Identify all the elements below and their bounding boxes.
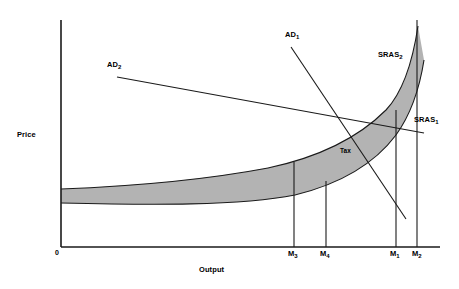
- sras1-label-sub: 1: [435, 119, 438, 125]
- output-marker-m4: M4: [320, 250, 330, 258]
- sras2-label-sub: 2: [399, 54, 402, 60]
- m4-label-sub: 4: [326, 253, 329, 259]
- ad1-label-sub: 1: [296, 34, 299, 40]
- origin-label: 0: [55, 249, 59, 256]
- sras2-label: SRAS2: [378, 51, 403, 59]
- sras1-label-text: SRAS: [414, 115, 435, 124]
- ad2-label-text: AD: [107, 60, 118, 69]
- ad1-label-text: AD: [285, 30, 296, 39]
- m2-label-sub: 2: [418, 253, 421, 259]
- output-marker-m3: M3: [288, 250, 298, 258]
- sras1-label: SRAS1: [414, 116, 439, 124]
- output-marker-m1: M1: [390, 250, 400, 258]
- ad2-curve: [117, 77, 424, 133]
- output-marker-m2: M2: [412, 250, 422, 258]
- m1-label-sub: 1: [396, 253, 399, 259]
- ad2-label-sub: 2: [118, 64, 121, 70]
- economics-diagram: Price Output 0 AD1 AD2 SRAS2 SRAS1 Tax M…: [0, 0, 459, 289]
- tax-area-label: Tax: [340, 148, 351, 155]
- sras2-label-text: SRAS: [378, 50, 399, 59]
- m3-label-sub: 3: [294, 253, 297, 259]
- x-axis-label: Output: [199, 266, 224, 274]
- diagram-canvas: [0, 0, 459, 289]
- tax-band-shape: [61, 26, 424, 204]
- ad1-label: AD1: [285, 31, 299, 39]
- y-axis-label: Price: [17, 131, 36, 139]
- ad2-label: AD2: [107, 61, 121, 69]
